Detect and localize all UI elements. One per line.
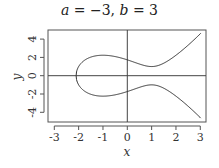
x-axis: -3-2-10123: [49, 126, 204, 144]
x-tick-label: -3: [49, 131, 60, 144]
y-tick-label: 0: [26, 72, 39, 79]
y-tick-label: -2: [26, 89, 39, 100]
y-tick-label: 2: [26, 54, 39, 61]
x-tick-label: 2: [172, 131, 179, 144]
x-tick-label: -1: [98, 131, 109, 144]
plot: -3-2-10123 -4-2024 x y: [0, 0, 219, 168]
reference-lines: [48, 30, 206, 122]
x-tick-label: 0: [124, 131, 131, 144]
x-tick-label: -2: [73, 131, 84, 144]
y-axis-label: y: [10, 73, 24, 81]
x-tick-label: 3: [197, 131, 204, 144]
x-tick-label: 1: [148, 131, 155, 144]
y-tick-label: 4: [26, 36, 39, 43]
y-tick-label: -4: [26, 107, 39, 118]
y-axis: -4-2024: [26, 36, 44, 118]
x-axis-label: x: [124, 145, 131, 159]
